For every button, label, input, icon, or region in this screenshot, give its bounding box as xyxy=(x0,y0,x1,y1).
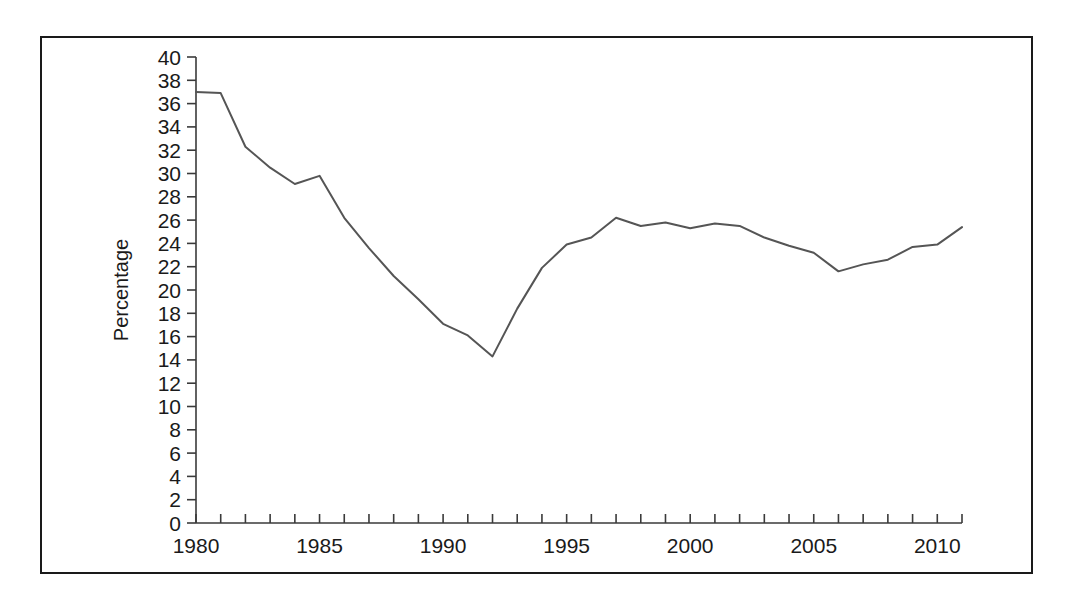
y-tick-label: 16 xyxy=(158,325,181,348)
x-tick-label: 1990 xyxy=(420,534,467,557)
y-axis-title: Percentage xyxy=(110,239,132,341)
y-tick-label: 2 xyxy=(169,488,181,511)
y-axis xyxy=(187,57,196,523)
y-tick-label: 30 xyxy=(158,162,181,185)
y-tick-label: 4 xyxy=(169,465,181,488)
x-tick-label: 2000 xyxy=(667,534,714,557)
x-tick-label: 1985 xyxy=(296,534,343,557)
y-tick-label: 0 xyxy=(169,512,181,535)
data-series xyxy=(196,92,962,356)
x-tick-label: 1980 xyxy=(173,534,220,557)
data-line-percentage xyxy=(196,92,962,356)
y-tick-label: 40 xyxy=(158,46,181,69)
y-tick-label: 36 xyxy=(158,92,181,115)
y-axis-tick-labels: 0246810121416182022242628303234363840 xyxy=(158,46,182,535)
figure-root: 0246810121416182022242628303234363840 19… xyxy=(0,0,1070,611)
x-tick-label: 1995 xyxy=(543,534,590,557)
x-axis-tick-labels: 1980198519901995200020052010 xyxy=(173,534,961,557)
y-tick-label: 28 xyxy=(158,185,181,208)
y-tick-label: 8 xyxy=(169,418,181,441)
line-chart: 0246810121416182022242628303234363840 19… xyxy=(0,0,1070,611)
x-tick-label: 2005 xyxy=(790,534,837,557)
y-axis-title-text: Percentage xyxy=(110,239,132,341)
y-tick-label: 14 xyxy=(158,348,182,371)
y-tick-label: 20 xyxy=(158,279,181,302)
y-tick-label: 34 xyxy=(158,115,182,138)
y-tick-label: 12 xyxy=(158,372,181,395)
y-tick-label: 6 xyxy=(169,442,181,465)
y-tick-label: 22 xyxy=(158,255,181,278)
y-tick-label: 38 xyxy=(158,69,181,92)
y-tick-label: 10 xyxy=(158,395,181,418)
y-tick-label: 26 xyxy=(158,209,181,232)
y-tick-label: 24 xyxy=(158,232,182,255)
y-tick-label: 18 xyxy=(158,302,181,325)
x-tick-label: 2010 xyxy=(914,534,961,557)
y-tick-label: 32 xyxy=(158,139,181,162)
x-axis xyxy=(196,514,962,523)
